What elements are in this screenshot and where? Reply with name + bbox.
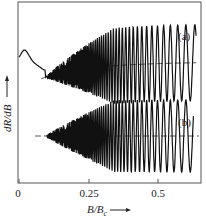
x-tick-label-0: 0 xyxy=(15,187,21,199)
x-tick-label-025: 0.25 xyxy=(79,187,99,199)
y-axis-arrowhead-icon xyxy=(5,75,9,81)
series-b-label: (b) xyxy=(178,116,191,129)
y-axis-label: dR/dB xyxy=(1,104,13,132)
x-tick-label-05: 0.5 xyxy=(151,187,165,199)
series-a-label: (a) xyxy=(178,30,191,43)
x-axis-label: B/Bc xyxy=(87,203,108,218)
x-axis-arrowhead-icon xyxy=(126,208,131,212)
series-a-curve xyxy=(19,25,196,104)
chart: 0 0.25 0.5 B/Bc dR/dB (a) (b) xyxy=(0,0,206,220)
